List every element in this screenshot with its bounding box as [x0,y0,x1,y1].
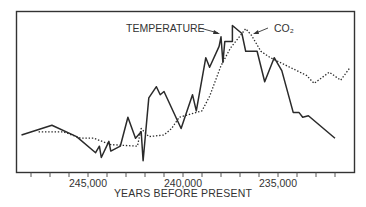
temperature-arrowhead-icon [213,30,220,34]
co2-annotation: CO₂ [253,22,294,34]
co2-arrowhead-icon [253,30,259,34]
temperature-label: TEMPERATURE [126,22,205,34]
co2-series-line [39,29,351,147]
chart-canvas: 245,000240,000235,000 TEMPERATURE CO₂ [0,0,366,207]
temperature-annotation: TEMPERATURE [126,22,220,34]
co2-label: CO₂ [274,22,294,34]
x-axis-title: YEARS BEFORE PRESENT [0,187,366,199]
plot-frame [17,12,355,173]
temperature-series-line [22,26,336,161]
